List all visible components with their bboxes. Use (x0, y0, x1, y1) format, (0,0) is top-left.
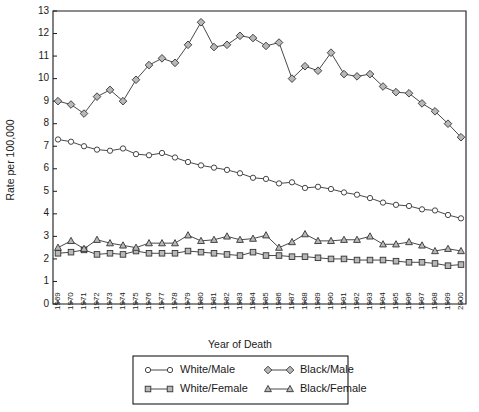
x-tick-label: 1974 (118, 292, 127, 310)
x-axis-title: Year of Death (208, 338, 272, 350)
x-tick-label: 1992 (352, 292, 361, 310)
data-point (315, 184, 320, 189)
x-tick-label: 1975 (131, 292, 140, 310)
data-point (211, 165, 216, 170)
legend-label: White/Female (180, 382, 248, 394)
data-point (224, 167, 229, 172)
x-tick-label: 1989 (313, 292, 322, 310)
data-point (354, 257, 360, 263)
x-tick-label: 1981 (209, 292, 218, 310)
legend-marker (145, 367, 150, 372)
legend-label: Black/Female (300, 382, 367, 394)
line-chart-figure: 012345678910111213 196919701971197219731… (0, 0, 479, 412)
x-tick-label: 1969 (53, 292, 62, 310)
x-tick-label: 1987 (287, 292, 296, 310)
x-tick-label: 1983 (235, 292, 244, 310)
x-tick-label: 1984 (248, 292, 257, 310)
data-point (419, 207, 424, 212)
data-point (458, 262, 464, 268)
x-tick-label: 1979 (183, 292, 192, 310)
data-point (393, 202, 398, 207)
x-tick-label: 1982 (222, 292, 231, 310)
data-point (185, 159, 190, 164)
data-point (315, 255, 321, 261)
data-point (146, 153, 151, 158)
data-point (263, 253, 269, 259)
x-tick-label: 1980 (196, 292, 205, 310)
x-tick-label: 1971 (79, 292, 88, 310)
y-axis-title: Rate per 100,000 (4, 119, 16, 200)
data-point (172, 251, 178, 257)
legend-label: White/Male (180, 363, 235, 375)
data-point (120, 146, 125, 151)
data-point (55, 137, 60, 142)
data-point (341, 190, 346, 195)
x-tick-label: 1990 (326, 292, 335, 310)
y-tick-label: 12 (38, 27, 50, 38)
chart-canvas: 012345678910111213 196919701971197219731… (0, 0, 479, 412)
x-tick-label: 1972 (92, 292, 101, 310)
legend-label: Black/Male (300, 363, 354, 375)
data-point (380, 257, 386, 263)
x-tick-label: 1976 (144, 292, 153, 310)
x-tick-label: 1998 (430, 292, 439, 310)
x-tick-label: 1999 (443, 292, 452, 310)
data-point (250, 249, 256, 255)
data-point (107, 251, 113, 257)
data-point (393, 258, 399, 264)
x-tick-label: 1996 (404, 292, 413, 310)
y-tick-label: 1 (43, 275, 49, 286)
x-tick-label: 1994 (378, 292, 387, 310)
y-tick-label: 6 (43, 162, 49, 173)
data-point (133, 151, 138, 156)
data-point (445, 263, 451, 269)
data-point (367, 195, 372, 200)
data-point (159, 150, 164, 155)
data-point (263, 176, 268, 181)
data-point (380, 200, 385, 205)
data-point (185, 248, 191, 254)
data-point (146, 251, 152, 257)
chart-legend: White/MaleWhite/FemaleBlack/MaleBlack/Fe… (133, 356, 367, 404)
legend-marker (145, 386, 151, 392)
y-tick-label: 0 (43, 298, 49, 309)
data-point (198, 249, 204, 255)
y-tick-label: 11 (39, 50, 50, 61)
x-tick-label: 1991 (339, 292, 348, 310)
data-point (211, 251, 217, 257)
y-tick-label: 9 (43, 95, 49, 106)
x-tick-label: 1997 (417, 292, 426, 310)
x-tick-label: 1977 (157, 292, 166, 310)
data-point (81, 144, 86, 149)
data-point (94, 147, 99, 152)
data-point (354, 192, 359, 197)
x-tick-label: 1995 (391, 292, 400, 310)
data-point (198, 163, 203, 168)
data-point (328, 186, 333, 191)
y-tick-label: 5 (43, 185, 49, 196)
data-point (289, 254, 295, 260)
y-tick-label: 8 (43, 117, 49, 128)
data-point (237, 171, 242, 176)
y-tick-label: 7 (43, 140, 49, 151)
x-tick-label: 1993 (365, 292, 374, 310)
legend-marker (167, 386, 173, 392)
data-point (94, 252, 100, 258)
data-point (276, 181, 281, 186)
data-point (419, 260, 425, 266)
y-tick-label: 13 (38, 5, 50, 16)
y-tick-label: 3 (43, 230, 49, 241)
data-point (406, 260, 412, 266)
data-point (289, 180, 294, 185)
data-point (68, 139, 73, 144)
data-point (302, 254, 308, 260)
x-tick-label: 1985 (261, 292, 270, 310)
data-point (445, 212, 450, 217)
data-point (250, 175, 255, 180)
legend-marker (167, 367, 172, 372)
data-point (302, 185, 307, 190)
data-point (276, 253, 282, 259)
data-point (458, 216, 463, 221)
y-tick-label: 2 (43, 253, 49, 264)
data-point (107, 148, 112, 153)
